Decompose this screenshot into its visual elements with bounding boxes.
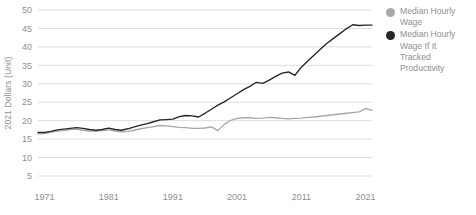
series-group <box>38 25 372 134</box>
x-axis-ticks-group: 197119811991200120112021 <box>34 192 375 202</box>
y-axis-title: 2021 Dollars (Unit) <box>0 0 16 185</box>
x-axis-tick-label: 2021 <box>356 192 376 202</box>
chart-legend: Median Hourly Wage Median Hourly Wage If… <box>386 6 476 75</box>
x-axis-tick-label: 2001 <box>227 192 247 202</box>
legend-label-series-0: Median Hourly Wage <box>400 6 466 28</box>
series-line-0 <box>38 108 372 133</box>
circle-marker-icon-series-0 <box>386 8 395 17</box>
y-axis-tick-label: 20 <box>22 116 32 126</box>
y-axis-tick-label: 30 <box>22 79 32 89</box>
y-axis-ticks-group: 5045403530252015105 <box>22 5 32 181</box>
legend-item-median-hourly-wage-if-tracked-productivity: Median Hourly Wage If It Tracked Product… <box>386 29 476 74</box>
y-axis-tick-label: 35 <box>22 61 32 71</box>
legend-item-median-hourly-wage: Median Hourly Wage <box>386 6 476 28</box>
legend-label-series-1: Median Hourly Wage If It Tracked Product… <box>400 29 466 74</box>
x-axis-tick-label: 1981 <box>99 192 119 202</box>
y-axis-tick-label: 45 <box>22 24 32 34</box>
y-axis-tick-label: 25 <box>22 97 32 107</box>
y-axis-tick-label: 50 <box>22 5 32 15</box>
x-axis-tick-label: 1971 <box>34 192 54 202</box>
x-axis-tick-label: 1991 <box>163 192 183 202</box>
y-axis-tick-label: 10 <box>22 153 32 163</box>
y-axis-tick-label: 15 <box>22 134 32 144</box>
chart-container: 2021 Dollars (Unit) 5045403530252015105 … <box>0 0 476 215</box>
y-axis-tick-label: 40 <box>22 42 32 52</box>
gridlines-group <box>38 10 372 176</box>
y-axis-title-label: 2021 Dollars (Unit) <box>3 56 13 129</box>
plot-area: 5045403530252015105 19711981199120012011… <box>16 4 380 212</box>
x-axis-tick-label: 2011 <box>292 192 311 202</box>
line-chart-svg: 5045403530252015105 19711981199120012011… <box>16 4 380 212</box>
y-axis-tick-label: 5 <box>27 171 32 181</box>
circle-marker-icon-series-1 <box>386 31 395 40</box>
